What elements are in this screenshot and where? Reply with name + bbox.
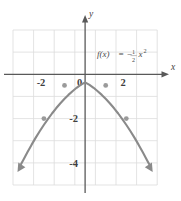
graph-canvas: x y -2 0 2 -2 -4 f(x) = − 1 2 x 2 — [0, 0, 181, 201]
y-tick-label-neg4: -4 — [69, 158, 78, 169]
parabola-graph-figure: x y -2 0 2 -2 -4 f(x) = − 1 2 x 2 — [0, 0, 181, 201]
curve-point — [62, 83, 67, 88]
function-equation-label: f(x) = − 1 2 x 2 — [97, 47, 147, 63]
x-tick-labels: -2 0 2 — [37, 77, 126, 88]
y-axis-arrowhead — [82, 15, 88, 23]
function-label-exponent: 2 — [144, 47, 147, 54]
curve-point — [42, 116, 47, 121]
function-label-denominator: 2 — [132, 56, 135, 63]
function-label-numerator: 1 — [132, 48, 135, 55]
x-tick-label-2: 2 — [120, 77, 125, 88]
y-axis-label: y — [88, 9, 94, 19]
x-axis-label: x — [170, 62, 176, 72]
y-tick-label-neg2: -2 — [69, 113, 78, 124]
function-label-variable: x — [138, 49, 143, 59]
x-axis-arrowhead — [162, 71, 170, 77]
curve-point — [124, 116, 129, 121]
x-tick-label-neg2: -2 — [37, 77, 46, 88]
function-label-fx: f(x) — [97, 49, 110, 59]
axes — [4, 15, 169, 193]
function-label-equals: = — [118, 49, 124, 59]
curve-point — [103, 83, 108, 88]
